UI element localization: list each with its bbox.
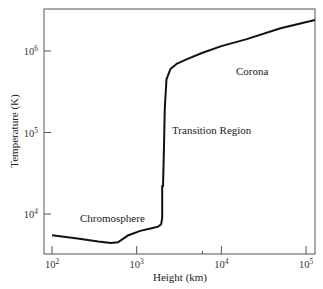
y-tick-label: 105	[24, 126, 39, 139]
region-annotations: ChromosphereTransition RegionCorona	[80, 65, 269, 224]
x-axis-title: Height (km)	[153, 271, 207, 284]
y-tick-label: 106	[24, 44, 39, 57]
annotation-corona: Corona	[236, 65, 269, 77]
x-tick-label: 105	[299, 257, 314, 270]
annotation-transition-region: Transition Region	[172, 124, 252, 136]
annotation-chromosphere: Chromosphere	[80, 212, 145, 224]
temperature-height-chart: 102103104105 104105106 ChromosphereTrans…	[0, 0, 323, 289]
x-tick-label: 102	[45, 257, 60, 270]
x-axis-ticks: 102103104105	[45, 246, 314, 270]
y-axis-title: Temperature (K)	[8, 94, 21, 168]
y-axis-ticks: 104105106	[24, 44, 51, 220]
x-tick-label: 104	[214, 257, 229, 270]
x-tick-label: 103	[130, 257, 145, 270]
y-tick-label: 104	[24, 207, 39, 220]
